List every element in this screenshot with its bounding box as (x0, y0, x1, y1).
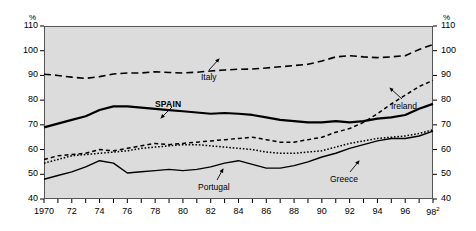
y-axis-label-left: 90 (8, 69, 38, 79)
series-label-greece: Greece (330, 174, 358, 184)
series-label-portugal: Portugal (198, 182, 230, 192)
series-label-italy: Italy (201, 72, 217, 82)
y-axis-label-right: 40 (441, 193, 451, 203)
y-axis-label-right: 80 (441, 94, 451, 104)
y-axis-label-right: 110 (441, 20, 455, 30)
y-axis-label-right: 90 (441, 69, 451, 79)
right-axis-ticks (433, 26, 437, 199)
y-axis-label-left: 110 (8, 20, 38, 30)
series-line-greece (44, 130, 433, 163)
y-axis-label-right: 50 (441, 168, 451, 178)
y-axis-label-right: 60 (441, 144, 451, 154)
y-axis-label-right: 100 (441, 45, 456, 55)
y-axis-label-left: 60 (8, 144, 38, 154)
x-axis-ticks (44, 199, 433, 203)
left-axis-ticks (40, 26, 44, 199)
y-axis-label-left: 50 (8, 168, 38, 178)
series-line-italy (44, 45, 433, 79)
arrow-greece (350, 161, 359, 172)
y-axis-label-right: 70 (441, 119, 451, 129)
arrow-ireland (390, 88, 402, 99)
y-axis-label-left: 100 (8, 45, 38, 55)
series-label-spain: SPAIN (155, 99, 181, 109)
series-label-ireland: Ireland (391, 101, 417, 111)
data-series-group (44, 45, 433, 180)
arrow-portugal (217, 169, 223, 180)
chart-svg (0, 0, 476, 231)
y-axis-label-left: 40 (8, 193, 38, 203)
y-axis-label-left: 80 (8, 94, 38, 104)
arrow-italy (209, 59, 219, 70)
y-axis-label-left: 70 (8, 119, 38, 129)
x-axis-label: 982 (413, 206, 453, 217)
chart-container: % % 405060708090100110 40506070809010011… (0, 0, 476, 231)
